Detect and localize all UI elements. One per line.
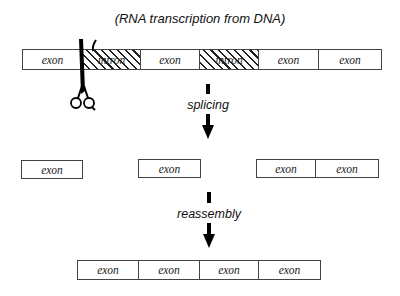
diagram-title: (RNA transcription from DNA)	[0, 11, 400, 26]
intron-segment: intron	[200, 50, 259, 69]
spliced-exon-group: exon	[138, 159, 201, 178]
step-label-splicing: splicing	[148, 98, 268, 112]
exon-segment: exon	[139, 261, 200, 279]
arrow-stem	[207, 192, 211, 203]
spliced-exon-group: exon exon	[256, 159, 379, 178]
exon-segment: exon	[139, 160, 200, 177]
exon-segment: exon	[200, 261, 259, 279]
exon-segment: exon	[141, 50, 200, 69]
exon-segment: exon	[22, 161, 82, 178]
exon-segment: exon	[316, 160, 378, 177]
exon-segment: exon	[257, 160, 316, 177]
arrow-stem	[206, 84, 210, 94]
step-label-reassembly: reassembly	[149, 207, 269, 221]
reassembled-mrna-bar: exon exon exon exon	[77, 260, 321, 280]
exon-segment: exon	[259, 261, 320, 279]
spliced-exon-group: exon	[21, 160, 83, 179]
exon-segment: exon	[78, 261, 139, 279]
exon-segment: exon	[259, 50, 319, 69]
exon-segment: exon	[319, 50, 381, 69]
scissors-icon	[64, 36, 104, 116]
down-arrow-icon	[202, 125, 214, 139]
down-arrow-icon	[203, 234, 215, 248]
